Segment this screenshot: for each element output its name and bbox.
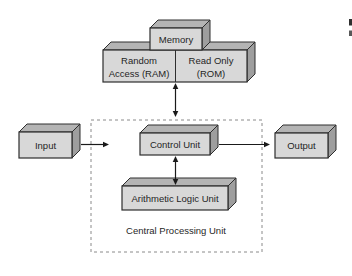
memory-box-top-face <box>150 20 210 28</box>
output-label: Output <box>287 140 316 151</box>
memory-label: Memory <box>159 34 194 45</box>
arrow-head-right <box>103 142 109 147</box>
ram-label-line2: Access (RAM) <box>109 68 170 79</box>
alu-box-top-face <box>122 178 236 186</box>
arrow-head-up <box>173 83 179 89</box>
arrow-head-down <box>173 111 179 117</box>
arrow-head-right <box>264 142 270 147</box>
output-box-top-face <box>275 125 336 133</box>
arrow-head-up <box>173 156 179 162</box>
input-box-top-face <box>19 124 80 132</box>
control-unit-label: Control Unit <box>150 139 201 150</box>
memory-box: Memory <box>150 20 210 50</box>
arrow-memory-cpu-bidirectional <box>173 83 179 117</box>
alu-box: Arithmetic Logic Unit <box>122 178 236 210</box>
input-box: Input <box>19 124 80 158</box>
input-label: Input <box>35 140 56 151</box>
rom-label-line2: (ROM) <box>197 68 226 79</box>
arrow-control-unit-alu-bidirectional <box>173 156 179 185</box>
rom-label-line1: Read Only <box>189 55 234 66</box>
output-box: Output <box>275 125 336 158</box>
control-unit-box-top-face <box>140 125 218 133</box>
ram-label-line1: Random <box>121 55 157 66</box>
cpu-container-label: Central Processing Unit <box>126 225 226 236</box>
alu-label: Arithmetic Logic Unit <box>131 193 218 204</box>
control-unit-box: Control Unit <box>140 125 218 155</box>
diagram-canvas: Random Access (RAM) Read Only (ROM) Memo… <box>0 0 352 276</box>
computer-architecture-diagram: Random Access (RAM) Read Only (ROM) Memo… <box>0 0 352 276</box>
arrow-input-to-cpu <box>81 142 109 147</box>
